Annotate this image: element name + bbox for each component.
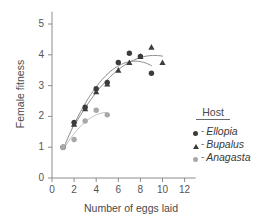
x-tick-label: 6 [108,184,128,195]
legend-marker-icon [190,148,201,166]
x-tick-label: 2 [64,184,84,195]
y-tick-label: 5 [30,18,44,29]
x-tick-label: 10 [153,184,173,195]
legend-rows: -Ellopia-Bupalus-Anagasta [190,124,266,163]
legend-title: Host [196,106,230,120]
y-tick-label: 4 [30,49,44,60]
y-axis-label: Female fitness [14,29,26,159]
data-points [60,44,165,150]
y-tick-label: 0 [30,172,44,183]
chart-figure: 024681012012345 Number of eggs laid Fema… [0,0,268,224]
marker-glyph [193,157,198,162]
y-tick-label: 1 [30,141,44,152]
x-tick-label: 12 [175,184,195,195]
data-point [94,108,99,113]
y-tick-label: 3 [30,80,44,91]
y-tick-label: 2 [30,110,44,121]
x-axis-label: Number of eggs laid [46,202,216,214]
data-point [159,59,165,65]
data-point [116,60,121,65]
data-point [71,137,76,142]
data-point [105,112,110,117]
legend-item: -Ellopia [190,124,266,137]
legend: Host -Ellopia-Bupalus-Anagasta [190,106,266,163]
data-point [149,71,154,76]
legend-label: Bupalus [206,138,244,150]
data-point [82,118,87,123]
legend-item: -Anagasta [190,150,266,163]
fit-curves [63,55,162,150]
axis-lines [48,12,196,182]
x-tick-label: 8 [130,184,150,195]
x-tick-label: 4 [86,184,106,195]
legend-item: -Bupalus [190,137,266,150]
data-point [148,44,154,50]
data-point [60,145,65,150]
legend-label: Anagasta [206,151,250,163]
legend-label: Ellopia [206,125,238,137]
data-point [127,51,132,56]
x-tick-label: 0 [42,184,62,195]
